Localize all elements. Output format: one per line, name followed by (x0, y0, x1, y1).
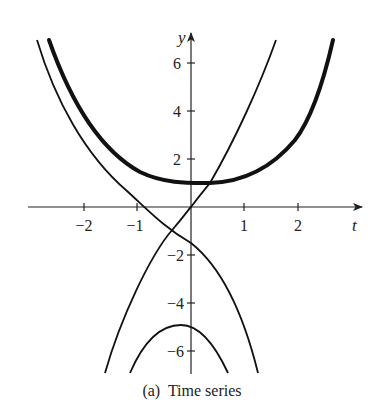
y-tick-label: −6 (167, 343, 184, 360)
y-tick-label: 4 (173, 103, 181, 120)
x-tick-label: 1 (240, 217, 248, 234)
x-tick-label: −2 (75, 217, 92, 234)
y-axis-label: y (176, 28, 186, 47)
x-axis-label: t (352, 216, 358, 235)
y-tick-label: 6 (173, 55, 181, 72)
chart: −2 −1 1 2 6 4 2 −2 −4 −6 y t (0, 0, 384, 380)
y-tick-label: 2 (173, 151, 181, 168)
y-tick-label: −4 (167, 295, 184, 312)
y-tick-label: −2 (167, 247, 184, 264)
x-tick-label: −1 (126, 217, 143, 234)
x-tick-label: 2 (294, 217, 302, 234)
figure-caption: (a) Time series (0, 382, 384, 400)
